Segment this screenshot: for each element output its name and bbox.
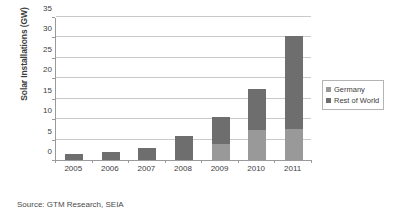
legend-label-rest-of-world: Rest of World bbox=[334, 95, 379, 106]
x-axis-tick-label: 2010 bbox=[236, 164, 276, 173]
bar-segment[interactable] bbox=[248, 130, 266, 160]
y-axis-tick-label: 10 bbox=[32, 106, 52, 115]
legend-swatch-rest-of-world bbox=[326, 98, 331, 103]
x-axis-tick-container: 2005200620072008200920102011 bbox=[55, 164, 311, 178]
legend-item-germany[interactable]: Germany bbox=[326, 84, 379, 95]
bar-segment[interactable] bbox=[65, 154, 83, 160]
y-axis-tick-label: 20 bbox=[32, 65, 52, 74]
x-axis-tick-mark bbox=[165, 160, 166, 163]
source-note: Source: GTM Research, SEIA bbox=[17, 200, 124, 209]
y-axis-tick-container: 05101520253035 bbox=[30, 18, 52, 161]
legend-item-rest-of-world[interactable]: Rest of World bbox=[326, 95, 379, 106]
x-axis-tick-label: 2005 bbox=[53, 164, 93, 173]
y-axis-tick-label: 0 bbox=[32, 147, 52, 156]
x-axis-tick-mark bbox=[92, 160, 93, 163]
bar-segment[interactable] bbox=[248, 89, 266, 130]
x-axis-tick-mark bbox=[128, 160, 129, 163]
x-axis-tick-mark bbox=[55, 160, 56, 163]
bar-segment[interactable] bbox=[102, 152, 120, 160]
bar-segment[interactable] bbox=[175, 136, 193, 160]
y-axis-tick-label: 25 bbox=[32, 45, 52, 54]
plot-area bbox=[55, 18, 311, 161]
y-axis-tick-label: 15 bbox=[32, 86, 52, 95]
bar-segment[interactable] bbox=[285, 129, 303, 160]
y-axis-tick-label: 35 bbox=[32, 4, 52, 13]
y-axis-tick-label: 5 bbox=[32, 127, 52, 136]
x-axis-tick-mark bbox=[311, 160, 312, 163]
bar-segment[interactable] bbox=[285, 36, 303, 129]
legend-swatch-germany bbox=[326, 87, 331, 92]
bar-segment[interactable] bbox=[138, 148, 156, 160]
gridline bbox=[56, 36, 311, 37]
x-axis-tick-mark bbox=[274, 160, 275, 163]
bar-segment[interactable] bbox=[212, 117, 230, 144]
x-axis-tick-mark bbox=[238, 160, 239, 163]
y-axis-tick-label: 30 bbox=[32, 24, 52, 33]
x-axis-tick-label: 2007 bbox=[126, 164, 166, 173]
bar-segment[interactable] bbox=[212, 144, 230, 160]
x-axis-tick-mark bbox=[201, 160, 202, 163]
gridline bbox=[56, 57, 311, 58]
gridline bbox=[56, 118, 311, 119]
gridline bbox=[56, 16, 311, 17]
x-axis-tick-label: 2011 bbox=[273, 164, 313, 173]
gridline bbox=[56, 77, 311, 78]
chart-legend: Germany Rest of World bbox=[322, 80, 384, 110]
x-axis-tick-label: 2006 bbox=[90, 164, 130, 173]
y-axis-title: Solar Installations (GW) bbox=[17, 0, 31, 124]
gridline bbox=[56, 98, 311, 99]
solar-installations-chart: Solar Installations (GW) 05101520253035 … bbox=[0, 0, 404, 223]
x-axis-tick-label: 2008 bbox=[163, 164, 203, 173]
legend-label-germany: Germany bbox=[334, 84, 365, 95]
x-axis-tick-label: 2009 bbox=[200, 164, 240, 173]
